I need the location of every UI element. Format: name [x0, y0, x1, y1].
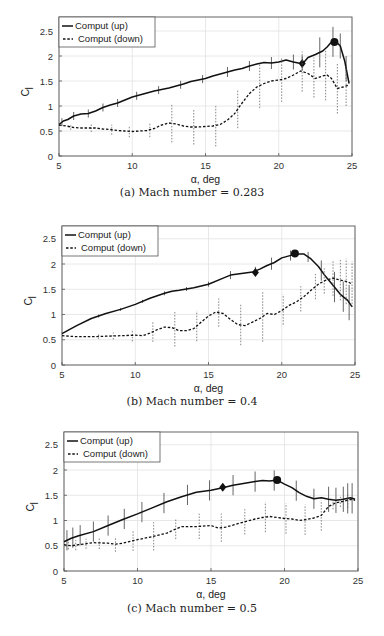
- legend-entry-up: Comput (up): [80, 435, 133, 446]
- y-axis-label: Cl: [19, 87, 35, 96]
- y-tick-label: 1.5: [45, 490, 58, 501]
- y-tick-label: 1.5: [43, 284, 56, 295]
- y-axis-label: Cl: [22, 296, 38, 305]
- y-tick-label: 1: [48, 101, 53, 112]
- x-tick-label: 25: [347, 160, 358, 171]
- x-tick-label: 20: [279, 575, 290, 586]
- x-tick-label: 10: [132, 575, 143, 586]
- y-tick-label: 0.5: [40, 126, 53, 137]
- x-tick-label: 15: [203, 369, 214, 380]
- svg-text:l: l: [23, 87, 35, 89]
- x-tick-label: 20: [273, 160, 284, 171]
- y-axis-label: Cl: [24, 502, 40, 511]
- x-tick-label: 15: [206, 575, 217, 586]
- circle-marker: [273, 476, 281, 484]
- x-axis-label: α, deg: [196, 588, 226, 600]
- chart-panel-c: 51015202500.511.522.5α, degClComput (up)…: [0, 416, 384, 636]
- series-comput-up: [62, 254, 352, 334]
- x-tick-label: 25: [350, 369, 361, 380]
- y-tick-label: 2: [48, 51, 53, 62]
- series-comput-down: [59, 71, 349, 132]
- svg-text:l: l: [26, 296, 38, 298]
- y-tick-label: 1.5: [40, 76, 53, 87]
- legend-entry-down: Comput (down): [83, 448, 148, 459]
- x-axis-label: α, deg: [191, 173, 221, 185]
- y-tick-label: 0: [53, 566, 58, 577]
- y-tick-label: 1: [51, 309, 56, 320]
- y-tick-label: 0.5: [43, 334, 56, 345]
- y-tick-label: 2.5: [45, 439, 58, 450]
- legend-entry-down: Comput (down): [81, 242, 146, 253]
- legend-entry-up: Comput (up): [78, 229, 131, 240]
- chart-panel-b: 51015202500.511.522.5α, degClComput (up)…: [0, 210, 384, 416]
- x-tick-label: 15: [200, 160, 211, 171]
- x-tick-label: 5: [56, 160, 61, 171]
- x-tick-label: 10: [127, 160, 138, 171]
- y-tick-label: 2.5: [40, 26, 53, 37]
- caption-c: (c) Mach number = 0.5: [0, 602, 384, 615]
- caption-b: (b) Mach number = 0.4: [0, 395, 384, 408]
- x-tick-label: 20: [276, 369, 287, 380]
- x-tick-label: 5: [59, 369, 64, 380]
- chart-b-plot: 51015202500.511.522.5α, degClComput (up)…: [0, 210, 384, 416]
- chart-panel-a: 51015202500.511.522.5α, degClComput (up)…: [0, 0, 384, 210]
- y-tick-label: 2: [51, 259, 56, 270]
- caption-a: (a) Mach number = 0.283: [0, 186, 384, 199]
- legend-entry-up: Comput (up): [75, 20, 128, 31]
- x-tick-label: 10: [130, 369, 141, 380]
- y-tick-label: 2: [53, 465, 58, 476]
- y-tick-label: 0: [51, 360, 56, 371]
- x-tick-label: 5: [61, 575, 66, 586]
- y-tick-label: 2.5: [43, 233, 56, 244]
- series-comput-up: [59, 42, 349, 125]
- circle-marker: [330, 38, 338, 46]
- diamond-marker: [219, 483, 226, 492]
- x-axis-label: α, deg: [194, 382, 224, 394]
- series-comput-down: [62, 278, 352, 337]
- chart-a-plot: 51015202500.511.522.5α, degClComput (up)…: [0, 0, 384, 210]
- legend-entry-down: Comput (down): [78, 33, 143, 44]
- svg-text:l: l: [28, 502, 40, 504]
- y-tick-label: 0: [48, 151, 53, 162]
- y-tick-label: 1: [53, 515, 58, 526]
- circle-marker: [291, 249, 299, 257]
- x-tick-label: 25: [353, 575, 364, 586]
- y-tick-label: 0.5: [45, 540, 58, 551]
